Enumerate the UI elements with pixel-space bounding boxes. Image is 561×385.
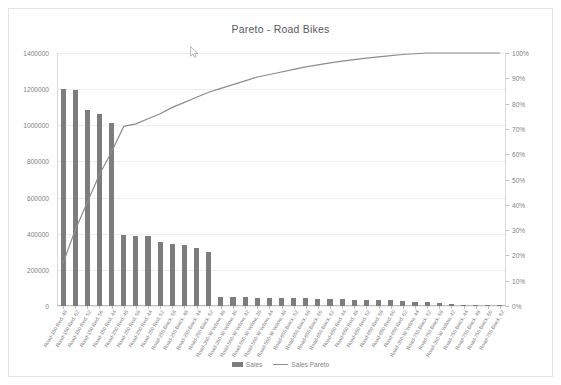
- y-axis-left-tick-label: 1000000: [0, 122, 49, 129]
- legend-item-sales-pareto: Sales Pareto: [273, 361, 329, 368]
- y-axis-right-tick-mark: [506, 281, 509, 282]
- y-axis-right-tick-label: 40%: [512, 201, 552, 208]
- y-axis-right-tick-label: 50%: [512, 176, 552, 183]
- y-axis-right-tick-mark: [506, 104, 509, 105]
- y-axis-right-tick-mark: [506, 53, 509, 54]
- y-axis-right-tick-label: 60%: [512, 151, 552, 158]
- y-axis-left-tick-label: 200000: [0, 266, 49, 273]
- y-axis-right-tick-mark: [506, 306, 509, 307]
- y-axis-left-tick-label: 1200000: [0, 86, 49, 93]
- legend-label-sales-pareto: Sales Pareto: [291, 361, 329, 368]
- y-axis-right-tick-label: 100%: [512, 50, 552, 57]
- y-axis-right-tick-mark: [506, 129, 509, 130]
- y-axis-left-tick-label: 800000: [0, 158, 49, 165]
- chart-title: Pareto - Road Bikes: [9, 23, 552, 35]
- y-axis-left-tick-label: 600000: [0, 194, 49, 201]
- mouse-pointer-icon: [190, 46, 199, 58]
- y-axis-right-tick-mark: [506, 154, 509, 155]
- legend-bar-swatch-icon: [232, 362, 243, 367]
- y-axis-right-tick-mark: [506, 180, 509, 181]
- plot-area: [57, 53, 506, 306]
- y-axis-right-tick-mark: [506, 255, 509, 256]
- y-axis-right-tick-label: 70%: [512, 125, 552, 132]
- y-axis-right-tick-label: 80%: [512, 100, 552, 107]
- y-axis-right-tick-label: 90%: [512, 75, 552, 82]
- y-axis-right-tick-mark: [506, 230, 509, 231]
- y-axis-right-tick-mark: [506, 205, 509, 206]
- y-axis-right-tick-label: 10%: [512, 277, 552, 284]
- legend-item-sales: Sales: [232, 361, 263, 368]
- y-axis-right-tick-label: 30%: [512, 227, 552, 234]
- y-axis-right-tick-mark: [506, 78, 509, 79]
- y-axis-right-tick-label: 20%: [512, 252, 552, 259]
- line-series-sales-pareto: [57, 53, 506, 306]
- y-axis-left-tick-label: 0: [0, 303, 49, 310]
- legend-label-sales: Sales: [246, 361, 263, 368]
- legend-line-swatch-icon: [273, 364, 288, 365]
- y-axis-left-tick-label: 1400000: [0, 50, 49, 57]
- y-axis-right-tick-label: 0%: [512, 303, 552, 310]
- y-axis-left-tick-label: 400000: [0, 230, 49, 237]
- chart-container: Pareto - Road Bikes 02000004000006000008…: [8, 8, 553, 377]
- chart-legend: Sales Sales Pareto: [9, 361, 552, 368]
